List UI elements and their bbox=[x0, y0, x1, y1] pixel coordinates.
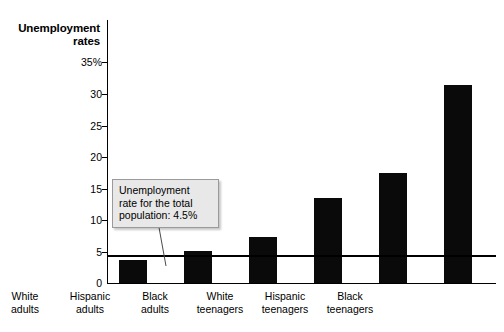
x-axis-line bbox=[107, 283, 496, 284]
unemployment-rates-bar-chart: Unemployment rates 35% 30 25 20 15 10 5 … bbox=[0, 0, 504, 332]
y-tick-mark-15 bbox=[102, 189, 107, 190]
bar-hispanic-teenagers[interactable] bbox=[379, 173, 407, 283]
y-tick-mark-5 bbox=[102, 252, 107, 253]
reference-line-total-population bbox=[107, 255, 496, 257]
y-tick-label-10: 10 bbox=[56, 215, 102, 226]
annotation-text: Unemployment rate for the total populati… bbox=[119, 184, 197, 221]
y-tick-label-5: 5 bbox=[56, 247, 102, 258]
y-tick-label-25: 25 bbox=[56, 121, 102, 132]
chart-title: Unemployment rates bbox=[8, 22, 100, 48]
y-tick-label-30: 30 bbox=[56, 89, 102, 100]
y-tick-mark-30 bbox=[102, 94, 107, 95]
category-label-black-teenagers: Black teenagers bbox=[307, 290, 393, 315]
y-tick-mark-35 bbox=[102, 62, 107, 63]
y-tick-mark-20 bbox=[102, 157, 107, 158]
bar-black-teenagers[interactable] bbox=[444, 85, 472, 283]
y-tick-label-0: 0 bbox=[56, 278, 102, 289]
y-tick-mark-25 bbox=[102, 126, 107, 127]
plot-area bbox=[108, 20, 496, 283]
y-tick-label-15: 15 bbox=[56, 184, 102, 195]
y-tick-label-20: 20 bbox=[56, 152, 102, 163]
bar-white-adults[interactable] bbox=[119, 260, 147, 283]
annotation-callout: Unemployment rate for the total populati… bbox=[112, 179, 219, 228]
y-tick-mark-10 bbox=[102, 220, 107, 221]
y-tick-label-35: 35% bbox=[56, 57, 102, 68]
bar-black-adults[interactable] bbox=[249, 237, 277, 283]
bar-white-teenagers[interactable] bbox=[314, 198, 342, 283]
